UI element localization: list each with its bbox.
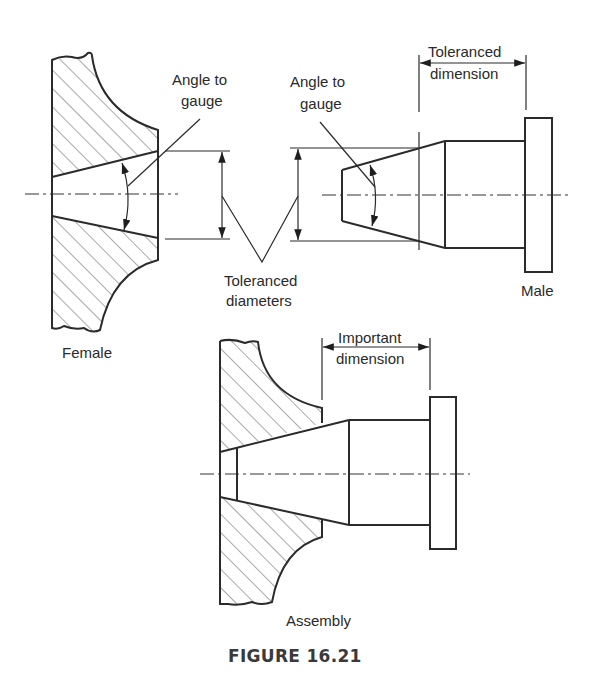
fit-diagram: Angle to gauge Female Toleranced diamete… xyxy=(0,0,598,680)
toleranced-diameters-label-2: diameters xyxy=(226,292,292,309)
male-angle-label-1: Angle to xyxy=(290,73,345,90)
male-angle-leader xyxy=(320,122,375,187)
female-label: Female xyxy=(62,344,112,361)
male-part xyxy=(320,55,572,272)
assembly-lower-section xyxy=(220,497,322,605)
important-dimension-label-1: Important xyxy=(338,329,402,346)
male-label: Male xyxy=(521,282,554,299)
figure-caption: FIGURE 16.21 xyxy=(228,646,362,666)
male-angle-label-2: gauge xyxy=(300,95,342,112)
assembly-collar xyxy=(430,397,456,549)
assembly xyxy=(200,338,470,605)
toleranced-dimension-label-1: Toleranced xyxy=(428,43,501,60)
toleranced-diameters-dimension xyxy=(165,148,418,262)
assembly-upper-section xyxy=(220,340,322,452)
assembly-label: Assembly xyxy=(286,612,352,629)
female-upper-section xyxy=(52,53,158,177)
toleranced-dimension-label-2: dimension xyxy=(430,65,498,82)
female-angle-label-2: gauge xyxy=(181,92,223,109)
important-dimension-label-2: dimension xyxy=(336,350,404,367)
female-angle-label-1: Angle to xyxy=(172,71,227,88)
toleranced-diameters-label-1: Toleranced xyxy=(224,272,297,289)
female-part xyxy=(25,53,200,332)
female-angle-arc xyxy=(122,163,128,230)
